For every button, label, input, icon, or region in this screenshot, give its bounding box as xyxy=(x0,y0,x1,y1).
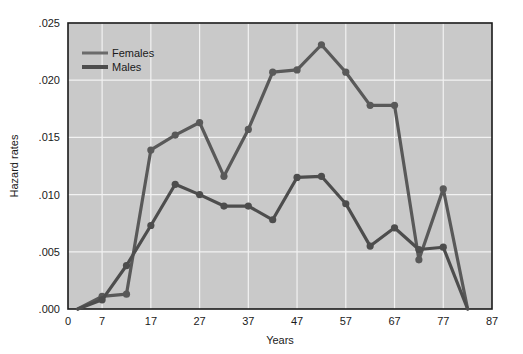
data-point-marker xyxy=(123,291,130,298)
data-point-marker xyxy=(245,126,252,133)
x-tick-label: 47 xyxy=(291,315,303,327)
data-point-marker xyxy=(123,262,130,269)
y-axis-title: Hazard rates xyxy=(8,134,20,197)
x-tick-label: 57 xyxy=(340,315,352,327)
x-axis-tick-labels: 071727374757677787 xyxy=(65,315,498,327)
data-point-marker xyxy=(172,181,179,188)
data-point-marker xyxy=(293,66,300,73)
chart-canvas: 071727374757677787 .000.005.010.015.020.… xyxy=(0,0,523,354)
hazard-rates-chart-figure: 071727374757677787 .000.005.010.015.020.… xyxy=(0,0,523,354)
x-tick-label: 17 xyxy=(145,315,157,327)
data-point-marker xyxy=(269,216,276,223)
data-point-marker xyxy=(415,246,422,253)
data-point-marker xyxy=(367,242,374,249)
x-tick-label: 0 xyxy=(65,315,71,327)
y-tick-label: .000 xyxy=(39,303,60,315)
x-tick-label: 7 xyxy=(99,315,105,327)
data-point-marker xyxy=(342,69,349,76)
data-point-marker xyxy=(245,202,252,209)
y-tick-label: .005 xyxy=(39,246,60,258)
data-point-marker xyxy=(196,191,203,198)
data-point-marker xyxy=(269,69,276,76)
data-point-marker xyxy=(196,119,203,126)
x-tick-label: 87 xyxy=(486,315,498,327)
x-axis-title: Years xyxy=(266,334,294,346)
data-point-marker xyxy=(318,41,325,48)
x-tick-label: 67 xyxy=(388,315,400,327)
x-tick-label: 77 xyxy=(437,315,449,327)
data-point-marker xyxy=(293,174,300,181)
data-point-marker xyxy=(367,102,374,109)
data-point-marker xyxy=(318,173,325,180)
legend-label-males: Males xyxy=(112,61,142,73)
data-point-marker xyxy=(342,200,349,207)
y-tick-label: .015 xyxy=(39,131,60,143)
data-point-marker xyxy=(391,224,398,231)
y-tick-label: .010 xyxy=(39,189,60,201)
data-point-marker xyxy=(391,102,398,109)
y-tick-label: .020 xyxy=(39,74,60,86)
y-tick-label: .025 xyxy=(39,17,60,29)
data-point-marker xyxy=(147,146,154,153)
x-tick-label: 37 xyxy=(242,315,254,327)
legend-label-females: Females xyxy=(112,47,155,59)
data-point-marker xyxy=(99,296,106,303)
y-axis-tick-labels: .000.005.010.015.020.025 xyxy=(39,17,60,315)
data-point-marker xyxy=(415,256,422,263)
data-point-marker xyxy=(172,132,179,139)
data-point-marker xyxy=(440,185,447,192)
data-point-marker xyxy=(220,173,227,180)
x-tick-label: 27 xyxy=(193,315,205,327)
data-point-marker xyxy=(440,244,447,251)
data-point-marker xyxy=(220,202,227,209)
data-point-marker xyxy=(147,222,154,229)
